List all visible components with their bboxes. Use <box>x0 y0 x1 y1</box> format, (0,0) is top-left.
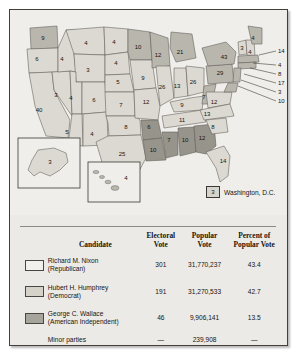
row-swatch-cell <box>20 279 48 305</box>
candidate-name-cell: Minor parties <box>48 331 143 349</box>
state-AR <box>141 120 162 140</box>
candidate-name-cell: Hubert H. Humphrey(Democrat) <box>48 279 143 305</box>
header-swatch-spacer <box>20 232 48 252</box>
table-row: Richard M. Nixon(Republican)30131,770,23… <box>20 252 278 278</box>
state-vote-IN: 13 <box>174 83 181 89</box>
map-table-divider <box>20 226 276 227</box>
candidate-party: (Republican) <box>48 265 139 273</box>
percent-cell: 13.5 <box>230 305 278 331</box>
table-row: George C. Wallace(American Independent)4… <box>20 305 278 331</box>
state-vote-MI: 21 <box>177 49 184 55</box>
map-svg: 9640344346544457825109126101226721139111… <box>10 10 286 215</box>
electoral-map-figure: 9640344346544457825109126101226721139111… <box>0 0 297 355</box>
leader-vote-0: 14 <box>278 48 285 54</box>
candidate-name: George C. Wallace <box>48 310 139 318</box>
row-swatch-cell <box>20 331 48 349</box>
state-WI <box>150 32 170 68</box>
state-vote-LA: 10 <box>150 147 157 153</box>
electoral-vote-cell: 301 <box>143 252 179 278</box>
header-candidate: Candidate <box>48 232 143 252</box>
state-vote-OH: 26 <box>190 79 197 85</box>
candidate-party: (Democrat) <box>48 292 139 300</box>
state-NJ <box>233 68 241 82</box>
state-vote-TX: 25 <box>119 151 126 157</box>
header-percent: Percent of Popular Vote <box>230 232 278 252</box>
leader-vote-5: 10 <box>278 98 285 104</box>
state-vote-AL: 10 <box>182 137 189 143</box>
state-vote-MO: 12 <box>143 99 150 105</box>
state-OR <box>27 48 58 73</box>
popular-vote-cell: 31,270,533 <box>179 279 231 305</box>
candidate-name: Minor parties <box>48 336 139 344</box>
state-vote-WI: 12 <box>155 52 162 58</box>
state-vote-CA: 40 <box>36 107 43 113</box>
header-electoral-vote: Electoral Vote <box>143 232 179 252</box>
state-vote-TN: 11 <box>179 117 186 123</box>
percent-cell: 42.7 <box>230 279 278 305</box>
candidate-name-cell: George C. Wallace(American Independent) <box>48 305 143 331</box>
table-row: Hubert H. Humphrey(Democrat)19131,270,53… <box>20 279 278 305</box>
electoral-vote-cell: — <box>143 331 179 349</box>
candidate-name-cell: Richard M. Nixon(Republican) <box>48 252 143 278</box>
state-vote-VA: 12 <box>211 99 218 105</box>
header-row: Candidate Electoral Vote Popular Vote Pe… <box>20 232 278 252</box>
percent-cell: — <box>230 331 278 349</box>
header-popular-vote-line2: Vote <box>179 241 231 250</box>
legend-swatch <box>25 286 44 297</box>
results-table-head: Candidate Electoral Vote Popular Vote Pe… <box>20 232 278 252</box>
state-vote-NC: 13 <box>204 111 211 117</box>
hawaii-inset: 4 <box>88 162 140 202</box>
us-electoral-map: 9640344346544457825109126101226721139111… <box>10 10 286 215</box>
electoral-vote-cell: 46 <box>143 305 179 331</box>
dc-vote-box: 3 <box>206 186 220 198</box>
state-vote-GA: 12 <box>199 135 206 141</box>
candidate-name: Richard M. Nixon <box>48 257 139 265</box>
state-vote-PA: 29 <box>217 70 224 76</box>
state-MI <box>170 32 196 62</box>
legend-swatch <box>25 260 44 271</box>
dc-legend: 3 Washington, D.C. <box>206 186 275 198</box>
row-swatch-cell <box>20 252 48 278</box>
table-row-minor-parties: Minor parties—239,908— <box>20 331 278 349</box>
popular-vote-cell: 239,908 <box>179 331 231 349</box>
state-vote-NY: 43 <box>221 54 228 60</box>
dc-legend-label: Washington, D.C. <box>224 189 275 196</box>
popular-vote-cell: 9,906,141 <box>179 305 231 331</box>
leader-vote-3: 17 <box>278 80 285 86</box>
results-table-body: Richard M. Nixon(Republican)30131,770,23… <box>20 252 278 350</box>
figure-panel: 9640344346544457825109126101226721139111… <box>9 9 288 346</box>
percent-cell: 43.4 <box>230 252 278 278</box>
header-electoral-vote-line2: Vote <box>143 241 179 250</box>
results-table: Candidate Electoral Vote Popular Vote Pe… <box>20 232 278 350</box>
candidate-party: (American Independent) <box>48 318 139 326</box>
header-percent-line2: Popular Vote <box>230 241 278 250</box>
state-ND <box>104 27 128 55</box>
electoral-vote-cell: 191 <box>143 279 179 305</box>
state-vote-IL: 26 <box>159 84 166 90</box>
candidate-name: Hubert H. Humphrey <box>48 284 139 292</box>
header-popular-vote: Popular Vote <box>179 232 231 252</box>
legend-swatch <box>25 313 44 324</box>
alaska-inset: 3 <box>18 138 80 188</box>
popular-vote-cell: 31,770,237 <box>179 252 231 278</box>
row-swatch-cell <box>20 305 48 331</box>
state-vote-FL: 14 <box>220 158 227 164</box>
state-vote-MN: 10 <box>135 44 142 50</box>
results-table-wrap: Candidate Electoral Vote Popular Vote Pe… <box>20 232 278 350</box>
